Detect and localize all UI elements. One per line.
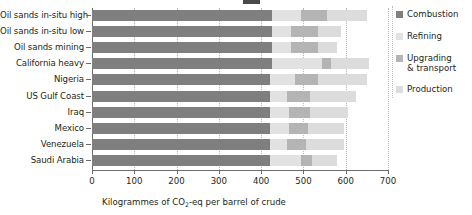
x-axis-tick-0 xyxy=(92,170,93,174)
bar-row xyxy=(92,107,348,118)
legend-swatch-icon xyxy=(396,33,403,40)
bar-segment-upgrading-transport xyxy=(287,91,310,102)
bar-segment-upgrading-transport xyxy=(289,107,310,118)
legend-label: Production xyxy=(407,85,453,95)
x-axis-tick-500 xyxy=(303,170,304,174)
bar-row xyxy=(92,139,344,150)
bar-segment-upgrading-transport xyxy=(301,155,312,166)
x-axis-tick-label: 100 xyxy=(126,176,142,186)
bar-segment-production xyxy=(310,107,348,118)
bar-segment-production xyxy=(318,74,367,85)
bar-segment-production xyxy=(318,26,341,37)
bar-segment-refining xyxy=(272,26,291,37)
category-axis-labels: Oil sands in-situ highOil sands in-situ … xyxy=(0,8,84,170)
category-label: California heavy xyxy=(0,59,84,68)
bar-row xyxy=(92,42,337,53)
bar-segment-combustion xyxy=(92,123,270,134)
bar-row xyxy=(92,58,369,69)
x-axis-tick-300 xyxy=(219,170,220,174)
gridline-700 xyxy=(388,8,390,170)
bar-segment-combustion xyxy=(92,107,270,118)
bar-row xyxy=(92,26,341,37)
category-label: Oil sands in-situ high xyxy=(0,11,84,20)
bar-segment-production xyxy=(331,58,369,69)
category-axis-tick xyxy=(86,31,91,32)
legend-swatch-icon xyxy=(396,55,403,62)
x-axis-tick-700 xyxy=(388,170,389,174)
bar-segment-upgrading-transport xyxy=(322,58,330,69)
bar-segment-production xyxy=(312,155,337,166)
x-axis-tick-100 xyxy=(134,170,135,174)
bar-segment-production xyxy=(318,42,337,53)
category-axis-tick xyxy=(86,63,91,64)
category-axis-tick xyxy=(86,15,91,16)
category-axis-tick xyxy=(86,144,91,145)
bar-segment-combustion xyxy=(92,139,270,150)
bar-segment-refining xyxy=(270,107,289,118)
bar-segment-refining xyxy=(270,91,287,102)
bar-segment-refining xyxy=(270,123,289,134)
legend-label: Upgrading& transport xyxy=(407,54,456,73)
bar-segment-combustion xyxy=(92,58,272,69)
cropped-title-remnant xyxy=(243,0,260,4)
bar-segment-upgrading-transport xyxy=(289,123,308,134)
legend-item[interactable]: Refining xyxy=(396,32,442,42)
category-label: Nigeria xyxy=(0,75,84,84)
bar-segment-upgrading-transport xyxy=(287,139,306,150)
x-axis-tick-label: 700 xyxy=(380,176,396,186)
x-axis-tick-label: 0 xyxy=(89,176,94,186)
bar-segment-combustion xyxy=(92,42,272,53)
bar-segment-upgrading-transport xyxy=(301,10,326,21)
legend-swatch-icon xyxy=(396,86,403,93)
x-axis-tick-label: 400 xyxy=(253,176,269,186)
bar-segment-combustion xyxy=(92,91,270,102)
category-label: Iraq xyxy=(0,108,84,117)
plot-area xyxy=(92,8,388,170)
x-axis-tick-600 xyxy=(346,170,347,174)
x-axis-title: Kilogrammes of CO2-eq per barrel of crud… xyxy=(0,197,388,210)
bar-segment-production xyxy=(308,123,344,134)
bar-segment-refining xyxy=(272,42,291,53)
x-axis-title-pre: Kilogrammes of CO xyxy=(102,197,185,207)
category-axis-tick xyxy=(86,112,91,113)
bar-row xyxy=(92,74,367,85)
x-axis-line xyxy=(92,170,389,171)
category-label: Oil sands mining xyxy=(0,43,84,52)
stacked-bar-chart: Oil sands in-situ highOil sands in-situ … xyxy=(0,0,472,215)
bar-segment-refining xyxy=(272,58,323,69)
legend-label-line2: & transport xyxy=(407,63,456,73)
bar-row xyxy=(92,123,344,134)
x-axis-tick-200 xyxy=(177,170,178,174)
x-axis-tick-label: 300 xyxy=(211,176,227,186)
bar-segment-upgrading-transport xyxy=(291,26,318,37)
category-axis-tick xyxy=(86,160,91,161)
category-axis-tick xyxy=(86,47,91,48)
bar-segment-upgrading-transport xyxy=(291,42,318,53)
bar-segment-production xyxy=(310,91,357,102)
legend-swatch-icon xyxy=(396,11,403,18)
bar-segment-combustion xyxy=(92,10,272,21)
legend-item[interactable]: Upgrading& transport xyxy=(396,54,456,73)
bar-row xyxy=(92,91,356,102)
bar-row xyxy=(92,10,367,21)
x-axis-tick-label: 600 xyxy=(338,176,354,186)
category-label: Saudi Arabia xyxy=(0,156,84,165)
legend-label: Combustion xyxy=(407,10,458,20)
legend-divider xyxy=(392,6,394,98)
legend-item[interactable]: Production xyxy=(396,85,453,95)
x-axis-tick-label: 200 xyxy=(168,176,184,186)
legend-label: Refining xyxy=(407,32,442,42)
category-axis-tick xyxy=(86,128,91,129)
bar-segment-production xyxy=(306,139,344,150)
x-axis-tick-label: 500 xyxy=(295,176,311,186)
bar-segment-refining xyxy=(272,10,302,21)
category-label: US Gulf Coast xyxy=(0,92,84,101)
legend-item[interactable]: Combustion xyxy=(396,10,458,20)
category-axis-tick xyxy=(86,96,91,97)
category-axis-tick xyxy=(86,79,91,80)
bar-segment-upgrading-transport xyxy=(295,74,318,85)
bar-segment-refining xyxy=(270,74,295,85)
bar-segment-combustion xyxy=(92,26,272,37)
x-axis-tick-400 xyxy=(261,170,262,174)
bar-segment-refining xyxy=(270,139,287,150)
